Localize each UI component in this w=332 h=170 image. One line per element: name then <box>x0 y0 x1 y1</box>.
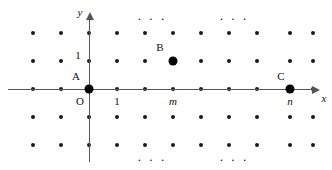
ellipsis-marker: · · · <box>219 153 249 166</box>
lattice-dot <box>311 59 315 63</box>
lattice-dot <box>59 59 63 63</box>
tick-label: n <box>287 96 293 107</box>
ellipsis-marker: · · · <box>219 12 249 25</box>
lattice-dot <box>59 115 63 119</box>
tick-label: m <box>169 96 177 107</box>
lattice-grid-figure: xy1O1mnABC· · ·· · ·· · ·· · · <box>0 0 332 170</box>
lattice-dot <box>143 31 147 35</box>
lattice-dot <box>288 31 292 35</box>
point-b-label: B <box>156 42 163 53</box>
tick-label: 1 <box>114 96 120 107</box>
point-a-label: A <box>72 71 80 82</box>
lattice-dot <box>143 143 147 147</box>
lattice-dot <box>311 143 315 147</box>
lattice-dot <box>31 143 35 147</box>
lattice-dot <box>199 31 203 35</box>
y-axis-label: y <box>78 7 83 18</box>
point-c-marker <box>286 85 295 94</box>
lattice-dot <box>199 115 203 119</box>
lattice-dot <box>143 59 147 63</box>
x-axis-label: x <box>322 93 327 104</box>
ellipsis-marker: · · · <box>137 12 167 25</box>
lattice-dot <box>288 143 292 147</box>
lattice-dot <box>255 31 259 35</box>
lattice-dot <box>199 59 203 63</box>
lattice-dot <box>199 143 203 147</box>
x-axis-arrow-icon <box>312 86 320 94</box>
lattice-dot <box>115 143 119 147</box>
lattice-dot <box>227 115 231 119</box>
lattice-dot <box>255 59 259 63</box>
lattice-dot <box>255 143 259 147</box>
lattice-dot <box>311 31 315 35</box>
lattice-dot <box>115 31 119 35</box>
point-c-label: C <box>277 71 284 82</box>
lattice-dot <box>31 31 35 35</box>
lattice-dot <box>288 115 292 119</box>
lattice-dot <box>31 115 35 119</box>
y-axis-arrow-icon <box>86 12 94 20</box>
lattice-dot <box>227 31 231 35</box>
x-axis-line <box>8 89 312 90</box>
tick-label: O <box>76 96 84 107</box>
lattice-dot <box>115 115 119 119</box>
ellipsis-marker: · · · <box>137 153 167 166</box>
lattice-dot <box>227 59 231 63</box>
lattice-dot <box>288 59 292 63</box>
lattice-dot <box>171 115 175 119</box>
lattice-dot <box>311 115 315 119</box>
lattice-dot <box>255 115 259 119</box>
lattice-dot <box>171 143 175 147</box>
lattice-dot <box>31 59 35 63</box>
point-b-marker <box>169 57 178 66</box>
tick-label: 1 <box>75 50 81 61</box>
lattice-dot <box>143 115 147 119</box>
lattice-dot <box>59 31 63 35</box>
lattice-dot <box>115 59 119 63</box>
point-a-marker <box>85 85 94 94</box>
lattice-dot <box>227 143 231 147</box>
lattice-dot <box>59 143 63 147</box>
lattice-dot <box>171 31 175 35</box>
